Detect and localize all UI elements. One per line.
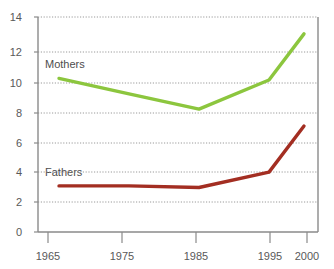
- x-axis-ticks: [48, 232, 307, 243]
- plot-area: [0, 0, 334, 269]
- series-line-fathers: [59, 126, 304, 188]
- chart-container: 14 12 10 8 6 4 2 0 1965 1975 1985 1995 2…: [0, 0, 334, 269]
- gridlines: [38, 17, 318, 202]
- axis-lines: [38, 17, 318, 232]
- series-line-mothers: [59, 34, 304, 109]
